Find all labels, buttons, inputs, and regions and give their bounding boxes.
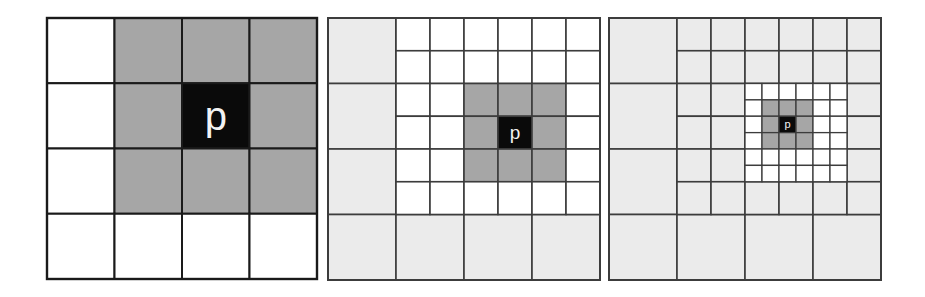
coarse-cell: [677, 215, 745, 281]
medium-cell: [498, 182, 532, 215]
fine-cell: [745, 149, 762, 165]
medium-cell: [566, 51, 600, 84]
medium-cell: [498, 149, 532, 182]
medium-cell: [532, 84, 566, 117]
medium-cell: [566, 116, 600, 149]
fine-cell: [830, 165, 847, 181]
fine-cell: [779, 84, 796, 100]
fine-cell: [796, 149, 813, 165]
medium-cell: [464, 182, 498, 215]
fine-cell: [745, 133, 762, 149]
coarse-cell: [115, 149, 183, 214]
fine-cell: [762, 116, 779, 132]
coarse-cell: [47, 18, 115, 83]
medium-cell: [677, 84, 711, 117]
medium-cell: [847, 18, 881, 51]
medium-cell: [464, 84, 498, 117]
coarse-cell: [250, 214, 318, 279]
center-label-p: p: [205, 94, 227, 138]
medium-cell: [745, 182, 779, 215]
fine-cell: [762, 133, 779, 149]
medium-cell: [464, 149, 498, 182]
coarse-cell: [609, 84, 677, 150]
medium-cell: [779, 182, 813, 215]
medium-cell: [813, 18, 847, 51]
medium-cell: [532, 116, 566, 149]
fine-cell: [779, 100, 796, 116]
medium-cell: [711, 182, 745, 215]
fine-cell: [779, 149, 796, 165]
fine-cell: [813, 165, 830, 181]
coarse-cell: [328, 215, 396, 281]
medium-cell: [566, 182, 600, 215]
medium-cell: [430, 51, 464, 84]
medium-cell: [847, 51, 881, 84]
fine-cell: [745, 84, 762, 100]
coarse-cell: [532, 215, 600, 281]
diagram-canvas: ppp: [0, 0, 925, 297]
medium-cell: [566, 149, 600, 182]
medium-cell: [396, 84, 430, 117]
coarse-cell: [745, 215, 813, 281]
coarse-cell: [250, 149, 318, 214]
fine-cell: [813, 100, 830, 116]
medium-cell: [847, 116, 881, 149]
medium-cell: [711, 51, 745, 84]
fine-cell: [779, 165, 796, 181]
fine-cell: [745, 116, 762, 132]
fine-cell: [813, 116, 830, 132]
coarse-cell: [328, 18, 396, 84]
fine-cell: [745, 165, 762, 181]
coarse-cell: [115, 83, 183, 148]
center-label-p: p: [784, 118, 790, 130]
medium-cell: [498, 51, 532, 84]
medium-cell: [532, 182, 566, 215]
fine-cell: [830, 84, 847, 100]
medium-cell: [813, 51, 847, 84]
medium-cell: [847, 182, 881, 215]
coarse-cell: [47, 214, 115, 279]
coarse-cell: [609, 149, 677, 215]
coarse-cell: [609, 18, 677, 84]
medium-cell: [779, 18, 813, 51]
medium-cell: [430, 18, 464, 51]
medium-cell: [566, 18, 600, 51]
fine-cell: [762, 149, 779, 165]
fine-cell: [745, 100, 762, 116]
coarse-cell: [328, 149, 396, 215]
medium-cell: [677, 18, 711, 51]
multiresolution-grid-diagram: ppp p: [0, 0, 925, 297]
coarse-cell: [47, 83, 115, 148]
medium-cell: [430, 84, 464, 117]
panel-level-3: p: [609, 18, 881, 280]
fine-cell: [830, 116, 847, 132]
coarse-cell: [813, 215, 881, 281]
medium-cell: [847, 84, 881, 117]
coarse-cell: [182, 18, 250, 83]
medium-cell: [677, 149, 711, 182]
fine-cell: [830, 133, 847, 149]
medium-cell: [396, 182, 430, 215]
medium-cell: [464, 18, 498, 51]
medium-cell: [711, 149, 745, 182]
panel-level-2: p: [328, 18, 600, 280]
coarse-cell: [182, 149, 250, 214]
fine-cell: [762, 165, 779, 181]
medium-cell: [779, 51, 813, 84]
coarse-cell: [328, 84, 396, 150]
medium-cell: [396, 116, 430, 149]
fine-cell: [813, 133, 830, 149]
medium-cell: [813, 182, 847, 215]
medium-cell: [464, 116, 498, 149]
medium-cell: [745, 18, 779, 51]
coarse-cell: [250, 18, 318, 83]
fine-cell: [779, 133, 796, 149]
medium-cell: [430, 149, 464, 182]
coarse-cell: [115, 214, 183, 279]
fine-cell: [762, 84, 779, 100]
fine-cell: [813, 149, 830, 165]
fine-cell: [762, 100, 779, 116]
medium-cell: [464, 51, 498, 84]
medium-cell: [711, 18, 745, 51]
fine-cell: [813, 84, 830, 100]
